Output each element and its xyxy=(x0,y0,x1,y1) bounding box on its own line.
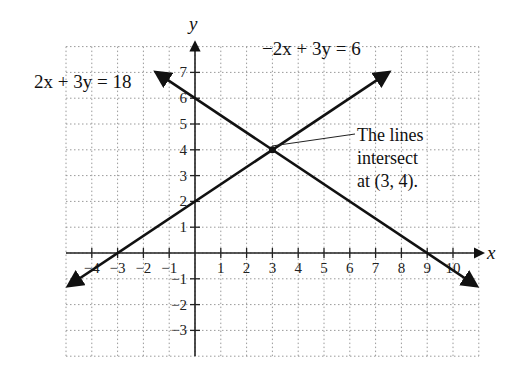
annotation-line-3: at (3, 4). xyxy=(357,171,418,192)
svg-text:−3: −3 xyxy=(110,260,126,276)
svg-text:5: 5 xyxy=(320,260,328,276)
grid-lines xyxy=(66,47,479,357)
annotation-line-2: intersect xyxy=(357,148,418,168)
svg-text:5: 5 xyxy=(180,116,188,132)
svg-text:−1: −1 xyxy=(171,271,187,287)
svg-text:−3: −3 xyxy=(171,322,187,338)
svg-text:3: 3 xyxy=(269,260,277,276)
svg-text:−2: −2 xyxy=(171,297,187,313)
svg-text:−2: −2 xyxy=(135,260,151,276)
x-axis-label: x xyxy=(486,242,496,263)
svg-text:4: 4 xyxy=(294,260,302,276)
annotation-line-1: The lines xyxy=(357,125,423,145)
annotation-leader-line xyxy=(272,134,355,146)
svg-text:2: 2 xyxy=(243,260,251,276)
y-axis-label: y xyxy=(187,13,198,34)
svg-text:1: 1 xyxy=(217,260,225,276)
equation-label-2: −2x + 3y = 6 xyxy=(262,38,361,59)
svg-text:3: 3 xyxy=(180,168,188,184)
svg-text:6: 6 xyxy=(346,260,354,276)
svg-text:9: 9 xyxy=(423,260,431,276)
svg-text:4: 4 xyxy=(180,142,188,158)
svg-text:8: 8 xyxy=(398,260,406,276)
equation-label-1: 2x + 3y = 18 xyxy=(34,71,131,92)
tick-labels: −4−3−2−112345678910−3−2−11234567 xyxy=(84,64,461,338)
svg-text:1: 1 xyxy=(180,219,188,235)
coordinate-plane: −4−3−2−112345678910−3−2−11234567 x y 2x … xyxy=(0,0,521,378)
svg-text:7: 7 xyxy=(180,64,188,80)
svg-text:7: 7 xyxy=(372,260,380,276)
